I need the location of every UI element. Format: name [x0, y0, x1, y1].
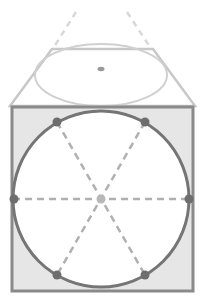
top-center-point: [98, 67, 105, 71]
circle-point-bottom-left: [53, 271, 62, 280]
circle-point-bottom-right: [141, 271, 150, 280]
circle-point-right: [185, 195, 194, 204]
geometry-diagram: [0, 0, 204, 304]
circle-point-left: [10, 195, 19, 204]
circle-point-top-left: [53, 118, 62, 127]
top-right-dashed-line: [127, 12, 150, 47]
top-left-dashed-line: [54, 12, 76, 47]
circle-point-top-right: [141, 118, 150, 127]
circle-center-point: [97, 195, 106, 204]
